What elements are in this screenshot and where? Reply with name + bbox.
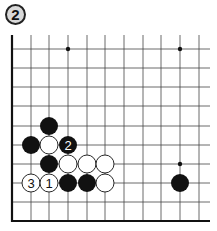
white-stone (40, 136, 58, 154)
star-point (178, 162, 182, 166)
white-stone (96, 174, 114, 192)
white-stone (78, 155, 96, 173)
black-stone (40, 155, 58, 173)
white-stone (59, 155, 77, 173)
black-stone (22, 136, 40, 154)
star-point (178, 47, 182, 51)
star-point (66, 47, 70, 51)
black-stone (40, 117, 58, 135)
move-number-label: 2 (64, 138, 71, 153)
black-stone (171, 174, 189, 192)
move-number-label: 3 (27, 176, 34, 191)
white-stone (96, 155, 114, 173)
go-board: 231 (0, 0, 217, 231)
black-stone (78, 174, 96, 192)
move-number-label: 1 (45, 176, 52, 191)
black-stone (59, 174, 77, 192)
